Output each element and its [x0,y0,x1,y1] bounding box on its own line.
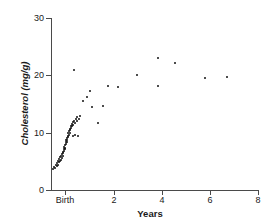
data-point [76,120,78,122]
scatter-chart-figure: Cholesterol (mg/g) Years 0102030 Birth24… [0,0,270,224]
data-point [204,77,206,79]
data-point [107,85,109,87]
data-point [73,69,75,71]
data-point [61,157,63,159]
data-point [157,85,159,87]
data-point [64,147,66,149]
data-point [66,141,68,143]
data-point [67,136,69,138]
data-point [69,132,71,134]
data-point [68,134,70,136]
data-point [62,152,64,154]
data-point [78,118,80,120]
data-point [102,105,104,107]
data-point [65,143,67,145]
data-point [72,124,74,126]
plot-area [0,0,270,224]
data-point [74,122,76,124]
data-point [60,159,62,161]
data-point [136,74,138,76]
data-point [226,76,228,78]
data-point [79,115,81,117]
data-point [82,100,84,102]
data-point [91,106,93,108]
data-point [66,139,68,141]
data-point [86,96,88,98]
data-point [63,150,65,152]
data-point [117,86,119,88]
data-point [97,122,99,124]
data-point [89,90,91,92]
data-point [54,167,56,169]
data-point [74,134,76,136]
data-point [57,164,59,166]
data-point [77,135,79,137]
data-point [62,155,64,157]
data-point [174,62,176,64]
data-point [70,127,72,129]
data-point [157,57,159,59]
